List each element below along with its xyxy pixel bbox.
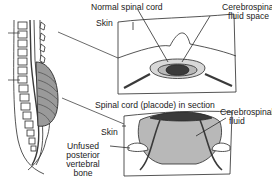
meningocele-sac (36, 62, 58, 126)
sagittal-spine-illustration (14, 20, 58, 174)
label-unfused-line4: bone (64, 169, 102, 178)
normal-spinal-cord (166, 65, 189, 76)
placode-cross-section (110, 111, 232, 176)
label-skin-bottom: Skin (101, 128, 118, 137)
label-csf-space-line2: fluid space (228, 12, 269, 21)
label-csf-line1: Cerebrospinal (220, 108, 272, 117)
normal-cord-cross-section (118, 10, 236, 94)
label-placode: Spinal cord (placode) in section (95, 101, 215, 110)
label-csf-line2: fluid (229, 117, 245, 126)
label-normal-spinal-cord: Normal spinal cord (91, 3, 163, 12)
diagram-canvas (0, 0, 272, 179)
label-skin-top: Skin (96, 19, 113, 28)
